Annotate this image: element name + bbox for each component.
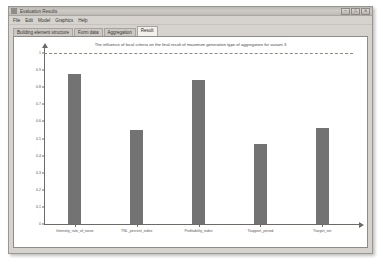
menu-item-help[interactable]: Help	[78, 18, 87, 23]
plot-area: 10.90.80.70.60.50.40.30.20.10 Intensity_…	[44, 53, 353, 225]
title-bar: Evaluation Results ─ □ ✕	[9, 7, 372, 16]
bar[interactable]	[68, 74, 81, 224]
y-axis-tick-mark	[42, 104, 44, 105]
maximize-button[interactable]: □	[351, 8, 360, 15]
x-axis-tick-label: TNL_percent_index	[121, 229, 152, 233]
x-axis-tick-mark	[75, 225, 76, 227]
y-axis-tick-label: 0.5	[36, 137, 41, 141]
y-axis-tick-mark	[42, 189, 44, 190]
close-button[interactable]: ✕	[361, 8, 370, 15]
tab-result[interactable]: Result	[137, 26, 158, 36]
x-axis-tick-mark	[322, 225, 323, 227]
x-axis-tick-label: Profitability_index	[184, 229, 212, 233]
bar[interactable]	[316, 128, 329, 224]
menu-item-edit[interactable]: Edit	[25, 18, 33, 23]
reference-line	[44, 53, 353, 54]
tab-bar: Building element structure Form data Agg…	[9, 25, 372, 36]
y-axis-tick-label: 0.6	[36, 119, 41, 123]
x-axis-line	[44, 224, 359, 225]
y-axis-tick-label: 0	[39, 222, 41, 226]
minimize-button[interactable]: ─	[341, 8, 350, 15]
bar[interactable]	[130, 130, 143, 224]
maximize-icon: □	[354, 9, 356, 13]
y-axis-arrow-icon	[42, 43, 48, 48]
y-axis-tick-label: 1	[39, 51, 41, 55]
y-axis-tick-mark	[42, 172, 44, 173]
x-axis-tick-label: Tsupport_period	[247, 229, 273, 233]
chart-title: The influence of local criteria on the f…	[14, 42, 367, 47]
y-axis-tick-label: 0.1	[36, 205, 41, 209]
menu-bar: File Edit Model Graphics Help	[9, 16, 372, 25]
y-axis-tick-mark	[42, 155, 44, 156]
y-axis-tick-label: 0.8	[36, 85, 41, 89]
app-icon	[11, 8, 17, 14]
x-axis-tick-label: Intensity_rate_of_noise	[56, 229, 93, 233]
bar[interactable]	[192, 80, 205, 224]
menu-item-file[interactable]: File	[13, 18, 20, 23]
menu-item-model[interactable]: Model	[38, 18, 50, 23]
x-axis-tick-mark	[199, 225, 200, 227]
minimize-icon: ─	[344, 9, 347, 13]
y-axis-tick-label: 0.4	[36, 154, 41, 158]
x-axis-tick-label: Ttarget_set	[313, 229, 331, 233]
y-axis-line	[44, 47, 45, 225]
x-axis-arrow-icon	[359, 222, 364, 228]
application-window: Evaluation Results ─ □ ✕ File Edit Model…	[8, 6, 373, 254]
y-axis-tick-mark	[42, 70, 44, 71]
y-axis-tick-mark	[42, 87, 44, 88]
x-axis-tick-mark	[260, 225, 261, 227]
window-title: Evaluation Results	[20, 9, 340, 14]
y-axis-tick-label: 0.3	[36, 171, 41, 175]
y-axis-tick-mark	[42, 121, 44, 122]
close-icon: ✕	[364, 9, 367, 13]
y-axis-tick-mark	[42, 224, 44, 225]
y-axis-tick-label: 0.2	[36, 188, 41, 192]
menu-item-graphics[interactable]: Graphics	[55, 18, 73, 23]
y-axis-tick-label: 0.9	[36, 68, 41, 72]
y-axis-tick-mark	[42, 138, 44, 139]
bar[interactable]	[254, 144, 267, 224]
y-axis-tick-mark	[42, 206, 44, 207]
y-axis-tick-label: 0.7	[36, 102, 41, 106]
chart-panel: The influence of local criteria on the f…	[13, 36, 368, 248]
x-axis-tick-mark	[137, 225, 138, 227]
